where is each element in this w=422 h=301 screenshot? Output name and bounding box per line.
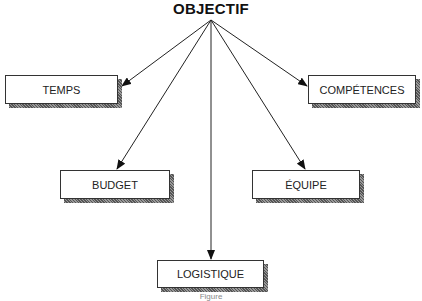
node-budget: BUDGET	[60, 170, 170, 199]
node-label: LOGISTIQUE	[177, 268, 244, 280]
arrow-to-competences	[211, 20, 307, 86]
node-label: BUDGET	[92, 179, 138, 191]
arrow-to-temps	[122, 20, 211, 86]
arrow-to-equipe	[211, 20, 305, 169]
node-label: ÉQUIPE	[285, 179, 327, 191]
figure-caption: Figure	[0, 292, 422, 301]
node-logistique: LOGISTIQUE	[157, 260, 264, 288]
arrow-to-budget	[117, 20, 211, 169]
node-temps: TEMPS	[5, 75, 118, 104]
node-competences: COMPÉTENCES	[308, 75, 416, 104]
node-label: COMPÉTENCES	[320, 84, 405, 96]
node-label: TEMPS	[43, 84, 81, 96]
node-equipe: ÉQUIPE	[252, 170, 360, 199]
